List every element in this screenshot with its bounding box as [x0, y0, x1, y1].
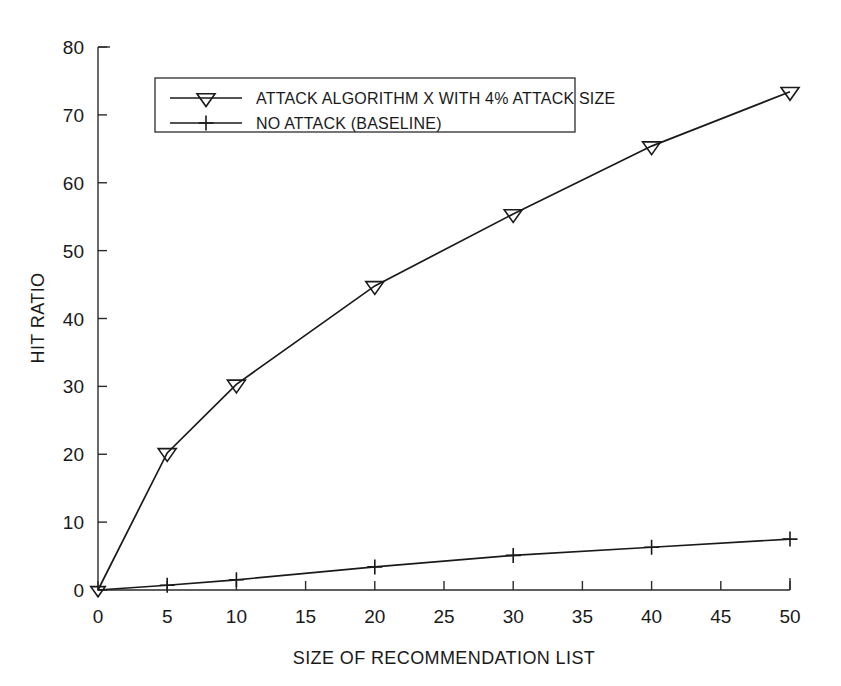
- y-tick-label: 70: [63, 105, 84, 126]
- data-point-marker: [644, 540, 659, 555]
- y-axis-title: HIT RATIO: [28, 273, 48, 364]
- y-tick-label: 10: [63, 512, 84, 533]
- x-tick-label: 15: [295, 606, 316, 627]
- data-point-marker: [506, 548, 521, 563]
- chart-figure: 01020304050607080 05101520253035404550 S…: [0, 0, 841, 686]
- x-tick-label: 35: [572, 606, 593, 627]
- x-axis-title: SIZE OF RECOMMENDATION LIST: [293, 648, 595, 668]
- chart-legend[interactable]: ATTACK ALGORITHM X WITH 4% ATTACK SIZENO…: [155, 78, 615, 132]
- y-tick-label: 50: [63, 241, 84, 262]
- data-series: [91, 88, 799, 597]
- legend-label: ATTACK ALGORITHM X WITH 4% ATTACK SIZE: [256, 90, 615, 107]
- data-series: [98, 532, 798, 593]
- x-tick-label: 20: [364, 606, 385, 627]
- line-chart-canvas: 01020304050607080 05101520253035404550 S…: [0, 0, 841, 686]
- data-point-marker: [158, 449, 176, 462]
- x-axis: 05101520253035404550: [93, 581, 801, 627]
- x-tick-label: 5: [162, 606, 173, 627]
- x-tick-label: 10: [226, 606, 247, 627]
- data-point-marker: [229, 572, 244, 587]
- y-tick-label: 60: [63, 173, 84, 194]
- x-tick-label: 45: [710, 606, 731, 627]
- y-axis: 01020304050607080: [63, 37, 107, 601]
- data-point-marker: [783, 532, 798, 547]
- x-tick-label: 50: [779, 606, 800, 627]
- y-tick-label: 80: [63, 37, 84, 58]
- y-tick-label: 20: [63, 444, 84, 465]
- y-tick-label: 30: [63, 376, 84, 397]
- y-tick-label: 40: [63, 309, 84, 330]
- series-line: [98, 92, 790, 590]
- x-tick-label: 0: [93, 606, 104, 627]
- legend-label: NO ATTACK (BASELINE): [256, 115, 442, 132]
- y-tick-label: 0: [73, 580, 84, 601]
- x-tick-label: 25: [433, 606, 454, 627]
- x-tick-label: 30: [503, 606, 524, 627]
- data-point-marker: [367, 559, 382, 574]
- data-series-group: [91, 88, 799, 597]
- x-tick-label: 40: [641, 606, 662, 627]
